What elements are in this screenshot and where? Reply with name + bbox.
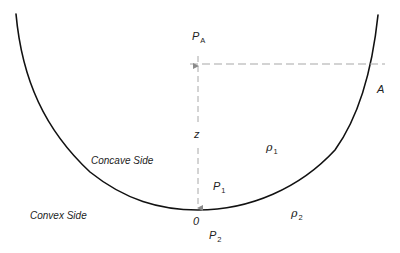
density-symbol: ρ (266, 141, 272, 154)
pressure-2-label: P2 (209, 230, 222, 241)
density-subscript: 1 (273, 147, 277, 156)
density-2-label: ρ2 (291, 208, 303, 219)
convex-side-text: Convex Side (30, 210, 87, 221)
pressure-symbol: P (209, 229, 216, 241)
point-a-text: A (377, 83, 384, 95)
origin-label: 0 (193, 216, 199, 227)
interface-curve (16, 14, 378, 210)
pressure-subscript: A (200, 36, 205, 45)
pressure-subscript: 1 (221, 186, 225, 195)
height-z-label: z (194, 129, 200, 140)
concave-side-label: Concave Side (91, 156, 153, 166)
pressure-a-label: PA (192, 31, 205, 42)
pressure-1-label: P1 (213, 181, 226, 192)
density-symbol: ρ (291, 207, 297, 220)
origin-text: 0 (193, 215, 199, 227)
pressure-subscript: 2 (217, 235, 221, 244)
pressure-symbol: P (213, 180, 220, 192)
pressure-symbol: P (192, 30, 199, 42)
height-z-text: z (194, 128, 200, 140)
convex-side-label: Convex Side (30, 211, 87, 221)
density-1-label: ρ1 (266, 142, 278, 153)
density-subscript: 2 (298, 213, 302, 222)
concave-side-text: Concave Side (91, 155, 153, 166)
point-a-label: A (377, 84, 384, 95)
